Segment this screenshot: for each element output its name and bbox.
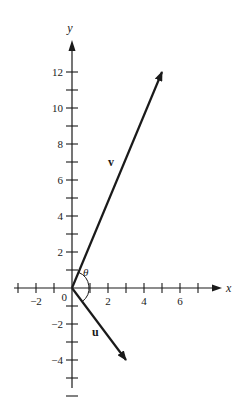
vector-u xyxy=(72,288,126,360)
vector-v xyxy=(72,72,162,288)
tick-labels: −2246−4−2246810120 xyxy=(30,66,183,366)
y-tick-label: 2 xyxy=(58,246,64,258)
vector-label-u: u xyxy=(92,325,99,339)
x-axis-label: x xyxy=(225,281,232,295)
theta-label: θ xyxy=(83,266,89,278)
x-axis-arrow-icon xyxy=(212,285,222,292)
vectors: vu xyxy=(72,72,162,360)
x-tick-label: 2 xyxy=(105,295,111,307)
origin-label: 0 xyxy=(62,291,68,303)
y-tick-label: −4 xyxy=(51,354,63,366)
y-tick-label: 4 xyxy=(58,210,64,222)
y-tick-label: 8 xyxy=(58,138,64,150)
y-tick-label: −2 xyxy=(51,318,63,330)
vector-diagram: xy −2246−4−2246810120 θ vu xyxy=(0,0,239,405)
y-axis-arrow-icon xyxy=(69,40,76,51)
axes: xy xyxy=(14,21,232,388)
y-tick-label: 10 xyxy=(52,102,64,114)
axis-ticks xyxy=(18,72,198,396)
x-tick-label: −2 xyxy=(30,295,42,307)
y-tick-label: 12 xyxy=(52,66,63,78)
y-tick-label: 6 xyxy=(58,174,64,186)
y-axis-label: y xyxy=(66,21,73,35)
x-tick-label: 6 xyxy=(177,295,183,307)
coordinate-plane: xy −2246−4−2246810120 θ vu xyxy=(0,0,239,405)
x-tick-label: 4 xyxy=(141,295,147,307)
vector-label-v: v xyxy=(108,155,114,169)
